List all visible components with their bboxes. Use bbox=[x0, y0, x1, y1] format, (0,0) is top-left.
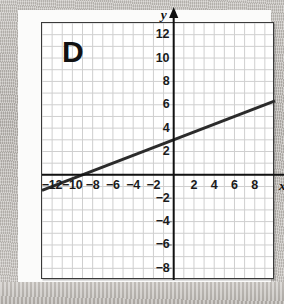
axis-tick-label: −2 bbox=[156, 191, 170, 205]
axis-tick-label: −6 bbox=[106, 178, 120, 192]
axis-tick-label: 8 bbox=[251, 178, 258, 192]
axis-tick-label: −8 bbox=[86, 178, 100, 192]
axis-tick-label: 12 bbox=[156, 27, 170, 41]
axis-tick-label: 2 bbox=[190, 178, 197, 192]
axis-tick-label: 8 bbox=[163, 74, 170, 88]
axis-tick-label: −10 bbox=[62, 178, 83, 192]
axis-tick-label: 4 bbox=[163, 121, 170, 135]
axis-tick-label: −4 bbox=[126, 178, 140, 192]
axis-tick-label: −6 bbox=[156, 237, 170, 251]
axis-tick-label: −8 bbox=[156, 261, 170, 275]
plot-frame: D x y −12−10−8−6−4−2246812108642−2−4−6−8 bbox=[41, 22, 274, 279]
axis-tick-label: 2 bbox=[163, 144, 170, 158]
axis-tick-label: −12 bbox=[42, 178, 63, 192]
page-bottom-edge bbox=[0, 282, 284, 304]
graph-figure: D x y −12−10−8−6−4−2246812108642−2−4−6−8 bbox=[41, 22, 274, 279]
axis-tick-label: 4 bbox=[211, 178, 218, 192]
paper-sheet: D x y −12−10−8−6−4−2246812108642−2−4−6−8 bbox=[18, 10, 271, 290]
axis-tick-label: 10 bbox=[156, 51, 170, 65]
axis-tick-label: 6 bbox=[231, 178, 238, 192]
axis-tick-label: −4 bbox=[156, 214, 170, 228]
x-axis-label: x bbox=[279, 178, 284, 194]
answer-choice-letter: D bbox=[62, 37, 84, 67]
axis-tick-label: 6 bbox=[163, 97, 170, 111]
y-axis-label: y bbox=[161, 7, 167, 23]
